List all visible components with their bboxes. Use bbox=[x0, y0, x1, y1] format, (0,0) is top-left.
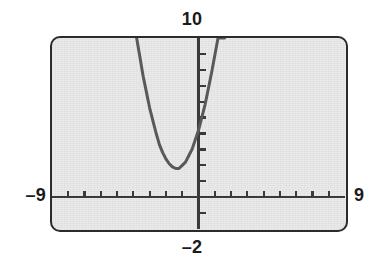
window-label-ymin: –2 bbox=[0, 238, 384, 256]
screenshot-stage: 10 –9 9 –2 bbox=[0, 0, 384, 264]
window-label-xmin: –9 bbox=[12, 186, 46, 204]
window-label-ymax: 10 bbox=[0, 10, 384, 28]
curve-layer bbox=[137, 38, 225, 169]
calculator-screen[interactable] bbox=[50, 36, 348, 232]
parabola-curve bbox=[137, 38, 225, 169]
window-label-xmax: 9 bbox=[354, 186, 382, 204]
graph-plot bbox=[52, 38, 345, 229]
